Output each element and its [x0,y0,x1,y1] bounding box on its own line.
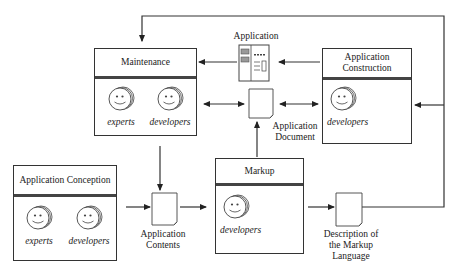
label-line: Language [332,251,369,261]
actor-developers: developers [220,193,264,235]
application-window-icon [239,45,269,81]
smiley-group-icon [23,204,55,232]
actor-label: developers [220,225,264,235]
actor-label: developers [145,117,195,127]
process-diagram: Maintenance experts developers [0,0,461,270]
actor-label: experts [17,236,61,246]
actor-developers: developers [327,85,371,127]
smiley-group-icon [220,193,252,221]
smiley-group-icon [73,204,105,232]
construction-title: Application Construction [323,49,411,80]
smiley-group-icon [154,85,186,113]
markup-description-icon [336,193,362,226]
label-line: Contents [146,240,180,250]
label-line: Application [273,121,318,131]
actor-label: experts [99,117,143,127]
application-contents-icon [152,193,177,225]
construction-title-line2: Construction [342,63,391,74]
maintenance-title: Maintenance [95,49,196,79]
markup-title: Markup [216,159,303,186]
label-line: Document [275,132,315,142]
label-line: Application [141,229,186,239]
label-line: Description of [324,229,379,239]
conception-title: Application Conception [14,166,116,197]
application-document-icon [249,89,273,118]
actor-label: developers [64,236,114,246]
smiley-group-icon [105,85,137,113]
application-conception-box: Application Conception experts developer… [13,165,117,261]
actor-developers: developers [64,204,114,246]
actor-developers: developers [145,85,195,127]
markup-description-label: Description of the Markup Language [316,229,386,262]
application-document-label: Application Document [268,121,322,143]
maintenance-box: Maintenance experts developers [94,48,197,136]
label-line: the Markup [329,240,373,250]
actor-label: developers [327,117,371,127]
actor-experts: experts [17,204,61,246]
construction-title-line1: Application [345,52,390,63]
actor-experts: experts [99,85,143,127]
markup-box: Markup developers [215,158,304,254]
application-contents-label: Application Contents [136,229,190,251]
application-construction-box: Application Construction developers [322,48,412,144]
application-label: Application [228,31,284,42]
smiley-group-icon [327,85,359,113]
